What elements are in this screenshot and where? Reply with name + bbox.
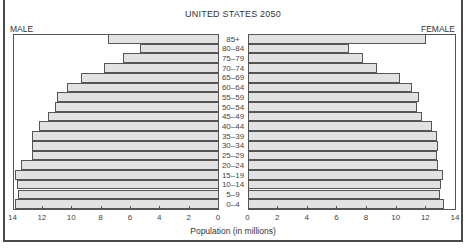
x-tick-label: 2 — [181, 213, 197, 222]
female-bar — [248, 83, 412, 93]
female-bar — [248, 151, 437, 161]
age-group-label: 70–74 — [218, 64, 248, 74]
age-group-label: 50–54 — [218, 103, 248, 113]
male-bar — [67, 83, 219, 93]
female-bar — [248, 44, 350, 54]
x-tick-label: 0 — [240, 213, 256, 222]
female-bar — [248, 112, 422, 122]
age-group-label: 85+ — [218, 35, 248, 45]
male-bar — [108, 34, 219, 44]
x-tick — [277, 206, 278, 210]
female-bar — [248, 131, 437, 141]
x-tick-label: 14 — [5, 213, 21, 222]
x-tick-label: 8 — [358, 213, 374, 222]
x-tick-label: 10 — [63, 213, 79, 222]
male-bar — [39, 121, 219, 131]
x-tick-label: 4 — [299, 213, 315, 222]
age-group-label: 75–79 — [218, 54, 248, 64]
x-tick — [307, 206, 308, 210]
female-bar — [248, 102, 418, 112]
female-bar — [248, 141, 439, 151]
female-bar — [248, 190, 440, 200]
male-bar — [32, 151, 219, 161]
female-label: FEMALE — [421, 24, 455, 34]
male-bar — [55, 102, 219, 112]
x-tick-label: 6 — [328, 213, 344, 222]
age-group-label: 10–14 — [218, 180, 248, 190]
age-group-label: 5–9 — [218, 190, 248, 200]
x-tick-label: 8 — [93, 213, 109, 222]
female-bar — [248, 170, 443, 180]
male-bar — [21, 160, 219, 170]
chart-title: UNITED STATES 2050 — [0, 9, 466, 19]
x-tick-label: 12 — [417, 213, 433, 222]
age-group-label: 35–39 — [218, 132, 248, 142]
age-group-label: 20–24 — [218, 161, 248, 171]
x-tick-label: 6 — [122, 213, 138, 222]
male-bar — [81, 73, 219, 83]
age-group-label: 55–59 — [218, 93, 248, 103]
x-tick — [101, 206, 102, 210]
x-tick — [396, 206, 397, 210]
male-bar — [15, 170, 219, 180]
age-group-label: 15–19 — [218, 171, 248, 181]
female-bar — [248, 180, 442, 190]
x-tick — [42, 206, 43, 210]
x-tick-label: 4 — [151, 213, 167, 222]
age-group-label: 65–69 — [218, 73, 248, 83]
male-bar — [48, 112, 219, 122]
x-tick-label: 10 — [388, 213, 404, 222]
x-axis-label: Population (in millions) — [0, 226, 466, 236]
x-tick — [336, 206, 337, 210]
male-bar — [57, 92, 219, 102]
male-label: MALE — [10, 24, 33, 34]
female-bar — [248, 34, 427, 44]
male-bar — [18, 190, 219, 200]
x-tick-label: 14 — [447, 213, 463, 222]
x-tick — [71, 206, 72, 210]
x-tick — [248, 206, 249, 210]
female-bar — [248, 121, 433, 131]
x-tick — [455, 206, 456, 210]
age-group-label: 25–29 — [218, 151, 248, 161]
x-tick — [189, 206, 190, 210]
male-bar — [17, 180, 219, 190]
age-group-label: 0–4 — [218, 200, 248, 210]
x-tick-label: 2 — [269, 213, 285, 222]
male-bar — [32, 141, 219, 151]
x-tick — [130, 206, 131, 210]
male-bar — [32, 131, 219, 141]
x-tick — [425, 206, 426, 210]
female-bar — [248, 53, 363, 63]
female-bar — [248, 73, 400, 83]
male-bar — [123, 53, 219, 63]
x-tick — [218, 206, 219, 210]
x-tick — [159, 206, 160, 210]
age-group-label: 80–84 — [218, 44, 248, 54]
x-tick — [366, 206, 367, 210]
age-group-label: 40–44 — [218, 122, 248, 132]
x-tick — [13, 206, 14, 210]
age-group-label: 60–64 — [218, 83, 248, 93]
female-bar — [248, 63, 378, 73]
x-tick-label: 0 — [210, 213, 226, 222]
male-bar — [104, 63, 219, 73]
age-group-label: 30–34 — [218, 141, 248, 151]
age-group-label: 45–49 — [218, 112, 248, 122]
x-tick-label: 12 — [34, 213, 50, 222]
male-bar — [140, 44, 219, 54]
female-bar — [248, 160, 439, 170]
female-bar — [248, 92, 419, 102]
